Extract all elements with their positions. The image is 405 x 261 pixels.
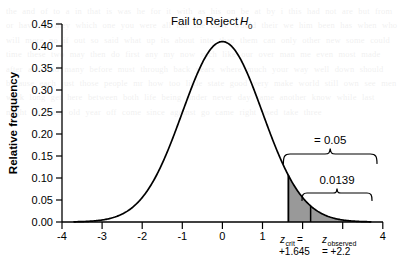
fail-to-reject-label: Fail to Reject H 0 — [171, 15, 253, 31]
x-axis-ticks — [62, 222, 383, 229]
y-axis-title: Relative frequency — [7, 71, 19, 174]
z-critical-value: +1.645 — [279, 246, 310, 257]
z-observed-annotation: z observed = +2.2 — [321, 234, 356, 257]
x-tick-label: -4 — [57, 230, 67, 242]
z-critical-symbol: z — [279, 234, 285, 245]
y-tick-label: 0.00 — [32, 216, 53, 228]
z-critical-equals: = — [297, 234, 303, 245]
y-axis-ticks — [56, 24, 62, 222]
x-tick-label: -2 — [137, 230, 147, 242]
y-tick-label: 0.35 — [32, 62, 53, 74]
y-tick-label: 0.30 — [32, 84, 53, 96]
x-tick-label: -3 — [97, 230, 107, 242]
y-tick-label: 0.20 — [32, 128, 53, 140]
y-tick-label: 0.40 — [32, 40, 53, 52]
p-value-brace-label: 0.0139 — [319, 174, 354, 186]
x-tick-label: 0 — [219, 230, 225, 242]
x-tick-label: -1 — [177, 230, 187, 242]
z-observed-value: = +2.2 — [322, 246, 351, 257]
p-value-brace — [302, 189, 372, 201]
null-hypothesis-subscript: 0 — [248, 22, 253, 31]
figure-container: the and of to a in that is was he for it… — [0, 0, 405, 261]
y-tick-label: 0.10 — [32, 172, 53, 184]
normal-curve — [74, 42, 371, 222]
alpha-brace — [283, 149, 377, 164]
x-tick-label: 4 — [380, 230, 386, 242]
normal-distribution-chart: 0.45 0.40 0.35 0.30 0.25 0.20 0.15 0.10 … — [0, 0, 405, 261]
z-observed-symbol: z — [321, 234, 327, 245]
y-tick-label: 0.45 — [32, 18, 53, 30]
y-tick-label: 0.05 — [32, 194, 53, 206]
alpha-brace-label: = 0.05 — [314, 134, 346, 146]
y-tick-label: 0.25 — [32, 106, 53, 118]
y-tick-label: 0.15 — [32, 150, 53, 162]
fail-to-reject-text: Fail to Reject — [171, 15, 239, 27]
x-tick-label: 1 — [259, 230, 265, 242]
z-critical-annotation: z crit = +1.645 — [279, 234, 310, 257]
